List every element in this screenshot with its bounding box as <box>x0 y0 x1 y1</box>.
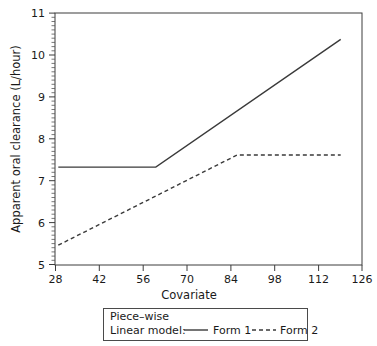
y-tick-label: 7 <box>38 175 45 188</box>
legend-title-line-2: Linear model: <box>110 324 186 337</box>
legend-label-form-2: Form 2 <box>280 324 318 337</box>
x-tick-label: 112 <box>308 273 329 286</box>
x-tick-label: 42 <box>92 273 106 286</box>
x-axis-tick-labels: 28 42 56 70 84 98 112 126 <box>49 273 373 286</box>
series-line-form-2 <box>58 155 340 245</box>
x-tick-label: 84 <box>224 273 238 286</box>
y-axis-title: Apparent oral clearance (L/hour) <box>9 45 23 233</box>
x-tick-label: 126 <box>352 273 373 286</box>
series-line-form-1 <box>58 39 340 167</box>
y-tick-label: 11 <box>31 7 45 20</box>
legend-label-form-1: Form 1 <box>213 324 251 337</box>
x-tick-label: 70 <box>180 273 194 286</box>
x-tick-label: 28 <box>49 273 63 286</box>
y-tick-label: 5 <box>38 259 45 272</box>
y-tick-label: 6 <box>38 217 45 230</box>
chart-canvas: 5 6 7 8 9 10 11 28 42 56 70 84 98 <box>0 0 377 346</box>
x-tick-label: 98 <box>268 273 282 286</box>
x-axis-title: Covariate <box>161 288 216 302</box>
y-tick-label: 10 <box>31 49 45 62</box>
x-tick-label: 56 <box>136 273 150 286</box>
chart-figure: 5 6 7 8 9 10 11 28 42 56 70 84 98 <box>0 0 377 346</box>
y-tick-label: 9 <box>38 91 45 104</box>
y-tick-label: 8 <box>38 133 45 146</box>
legend-title-line-1: Piece–wise <box>110 310 169 323</box>
x-axis-ticks <box>56 265 363 271</box>
chart-legend: Piece–wise Linear model: Form 1 Form 2 <box>104 309 319 341</box>
plot-frame <box>55 13 362 265</box>
y-axis-tick-labels: 5 6 7 8 9 10 11 <box>31 7 45 271</box>
